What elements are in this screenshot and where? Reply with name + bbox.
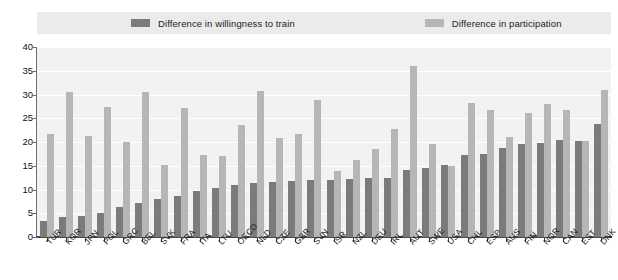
y-tick-label: 20 bbox=[3, 136, 33, 147]
bar-group bbox=[135, 92, 149, 237]
bar-participation bbox=[429, 144, 436, 237]
bar-participation bbox=[372, 149, 379, 237]
bar-group bbox=[59, 92, 73, 237]
chart-legend: Difference in willingness to train Diffe… bbox=[37, 12, 611, 34]
bar-group bbox=[116, 142, 130, 237]
bar-willingness bbox=[269, 182, 276, 237]
bar-group bbox=[346, 160, 360, 237]
legend-entry-willingness: Difference in willingness to train bbox=[131, 18, 295, 29]
bar-willingness bbox=[346, 179, 353, 237]
bar-willingness bbox=[384, 178, 391, 237]
bar-group bbox=[384, 129, 398, 237]
bar-participation bbox=[181, 108, 188, 237]
legend-swatch-willingness bbox=[131, 19, 150, 27]
bar-group bbox=[193, 155, 207, 237]
bar-willingness bbox=[422, 168, 429, 237]
bar-participation bbox=[506, 137, 513, 237]
bar-willingness bbox=[365, 178, 372, 237]
bar-participation bbox=[582, 141, 589, 237]
y-tick-mark bbox=[33, 166, 37, 167]
y-tick-mark bbox=[33, 213, 37, 214]
y-tick-label: 15 bbox=[3, 160, 33, 171]
y-tick-label: 0 bbox=[3, 231, 33, 242]
bar-group bbox=[250, 91, 264, 237]
bar-willingness bbox=[537, 143, 544, 237]
bar-group bbox=[518, 113, 532, 237]
bar-willingness bbox=[518, 144, 525, 237]
y-tick-label: 10 bbox=[3, 184, 33, 195]
bar-group bbox=[537, 104, 551, 237]
bar-group bbox=[40, 134, 54, 237]
bar-participation bbox=[104, 107, 111, 237]
bar-participation bbox=[410, 66, 417, 237]
bar-participation bbox=[544, 104, 551, 237]
bar-willingness bbox=[594, 124, 601, 237]
bar-group bbox=[422, 144, 436, 237]
bar-willingness bbox=[212, 188, 219, 237]
y-tick-mark bbox=[33, 237, 37, 238]
bar-participation bbox=[353, 160, 360, 237]
y-tick-label: 35 bbox=[3, 65, 33, 76]
bar-willingness bbox=[480, 154, 487, 237]
bar-group bbox=[97, 107, 111, 237]
bar-group bbox=[327, 171, 341, 237]
bar-participation bbox=[601, 90, 608, 237]
y-tick-label: 30 bbox=[3, 89, 33, 100]
bar-participation bbox=[391, 129, 398, 237]
bar-group bbox=[307, 100, 321, 237]
bar-participation bbox=[66, 92, 73, 237]
bar-participation bbox=[468, 103, 475, 237]
bar-participation bbox=[142, 92, 149, 237]
bar-participation bbox=[276, 138, 283, 237]
bar-group bbox=[212, 156, 226, 237]
bar-participation bbox=[295, 134, 302, 237]
bar-group bbox=[78, 136, 92, 237]
bar-willingness bbox=[231, 185, 238, 237]
bar-participation bbox=[200, 155, 207, 237]
bar-group bbox=[480, 110, 494, 237]
y-axis-labels: 0510152025303540 bbox=[0, 47, 33, 237]
bar-series-container bbox=[37, 47, 611, 237]
bar-willingness bbox=[461, 155, 468, 237]
bar-participation bbox=[161, 165, 168, 237]
bar-group bbox=[269, 138, 283, 237]
bar-participation bbox=[238, 125, 245, 237]
legend-label-willingness: Difference in willingness to train bbox=[158, 18, 295, 29]
legend-entry-participation: Difference in participation bbox=[425, 18, 562, 29]
legend-label-participation: Difference in participation bbox=[452, 18, 562, 29]
y-tick-mark bbox=[33, 118, 37, 119]
bar-group bbox=[556, 110, 570, 237]
y-tick-label: 5 bbox=[3, 207, 33, 218]
bar-willingness bbox=[441, 165, 448, 237]
y-tick-label: 25 bbox=[3, 112, 33, 123]
bar-group bbox=[441, 165, 455, 237]
x-axis-labels: TURKORJPNPOLGRCBELSVKFRAITALTUOECDNLDCZE… bbox=[37, 240, 611, 280]
bar-willingness bbox=[40, 221, 47, 237]
bar-group bbox=[288, 134, 302, 237]
bar-group bbox=[174, 108, 188, 237]
legend-swatch-participation bbox=[425, 19, 444, 27]
bar-willingness bbox=[575, 141, 582, 237]
bar-group bbox=[154, 165, 168, 237]
bar-participation bbox=[563, 110, 570, 237]
bar-group bbox=[461, 103, 475, 237]
y-tick-mark bbox=[33, 95, 37, 96]
bar-group bbox=[365, 149, 379, 237]
y-tick-mark bbox=[33, 47, 37, 48]
bar-group bbox=[499, 137, 513, 237]
bar-group bbox=[575, 141, 589, 237]
bar-participation bbox=[448, 166, 455, 237]
y-tick-label: 40 bbox=[3, 41, 33, 52]
y-tick-mark bbox=[33, 71, 37, 72]
bar-willingness bbox=[499, 148, 506, 237]
y-tick-mark bbox=[33, 190, 37, 191]
bar-participation bbox=[334, 171, 341, 237]
y-tick-mark bbox=[33, 142, 37, 143]
bar-willingness bbox=[327, 180, 334, 237]
bar-willingness bbox=[556, 140, 563, 237]
bar-participation bbox=[85, 136, 92, 237]
bar-willingness bbox=[403, 170, 410, 237]
bar-willingness bbox=[288, 181, 295, 237]
bar-participation bbox=[219, 156, 226, 237]
bar-participation bbox=[487, 110, 494, 237]
